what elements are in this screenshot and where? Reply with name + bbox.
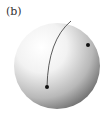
sphere-diagram [0,0,110,122]
sphere [14,23,100,109]
point-p1 [45,85,49,89]
point-p2 [86,43,90,47]
